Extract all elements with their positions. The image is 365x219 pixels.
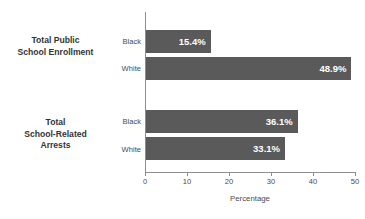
x-axis-tick [313,172,314,176]
bar-chart: Public School Enrollment and Arrests Tot… [0,0,365,219]
x-axis-tick [229,172,230,176]
x-axis-tick [187,172,188,176]
x-axis-title: Percentage [145,194,355,203]
group-label-arrests: Total School-Related Arrests [3,117,108,152]
group-label-line: Arrests [3,140,108,152]
group-label-enrollment: Total Public School Enrollment [3,35,108,58]
group-label-line: Total [3,117,108,129]
category-label-enrollment-white: White [108,64,141,73]
bar-value-label: 15.4% [172,30,206,53]
bar-value-label: 48.9% [312,57,346,80]
x-axis-tick-label: 20 [216,177,242,186]
category-label-arrests-black: Black [108,117,141,126]
x-axis-tick-label: 50 [342,177,365,186]
group-label-line: School-Related [3,129,108,141]
category-label-arrests-white: White [108,145,141,154]
bar-value-label: 33.1% [246,137,280,160]
x-axis-tick [145,172,146,176]
x-axis-tick-label: 0 [132,177,158,186]
group-label-line: Total Public [3,35,108,47]
x-axis-tick-label: 30 [258,177,284,186]
x-axis-tick [271,172,272,176]
x-axis-tick [355,172,356,176]
bar-value-label: 36.1% [259,110,293,133]
plot-area: 01020304050 15.4%48.9%36.1%33.1% [145,12,355,172]
category-label-enrollment-black: Black [108,37,141,46]
group-label-line: School Enrollment [3,47,108,59]
x-axis-line [145,172,355,173]
x-axis-tick-label: 40 [300,177,326,186]
chart-title: Public School Enrollment and Arrests [150,0,365,2]
x-axis-tick-label: 10 [174,177,200,186]
